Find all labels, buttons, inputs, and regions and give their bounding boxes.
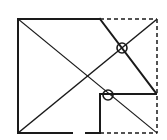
diagonal-anti [18, 20, 156, 133]
geometry-diagram [0, 0, 167, 140]
fold-line [100, 19, 156, 93]
diagram-canvas: Geometric construction: square with diag… [0, 0, 167, 140]
